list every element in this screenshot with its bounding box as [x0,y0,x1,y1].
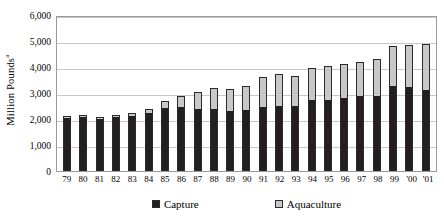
x-axis-tick-label: 85 [161,174,169,188]
bar-segment-capture [275,106,283,171]
x-axis-tick-label: 81 [95,174,103,188]
x-axis-tick-label: 83 [128,174,136,188]
bar-group [112,115,120,171]
y-axis-title-footnote: a [3,55,10,58]
x-axis-tick-label: '01 [423,174,431,188]
plot-area [56,16,437,172]
bar-segment-capture [112,117,120,171]
bar-group [373,59,381,171]
bar-group [63,116,71,171]
x-axis-tick-label: 82 [111,174,119,188]
bar-segment-capture [194,109,202,171]
x-axis-tick-label: 95 [324,174,332,188]
y-axis-tick-label: 6,000 [30,11,51,21]
bar-segment-capture [242,110,250,171]
bar-group [177,96,185,171]
bar-group [389,46,397,171]
x-axis-tick-label: 80 [79,174,87,188]
bar-group [259,77,267,171]
bar-group [161,101,169,171]
bar-segment-capture [373,96,381,171]
bar-segment-capture [324,100,332,171]
bar-segment-capture [161,108,169,171]
x-axis-tick-label: 92 [275,174,283,188]
black-square-icon [152,200,160,208]
y-axis-tick-labels: 01,0002,0003,0004,0005,0006,000 [16,16,54,172]
bar-segment-capture [177,107,185,171]
bar-segment-capture [63,118,71,171]
x-axis-tick-label: 89 [226,174,234,188]
bar-segment-capture [128,116,136,171]
bar-group [79,115,87,171]
stacked-bar-chart: Million Poundsa 01,0002,0003,0004,0005,0… [0,0,444,221]
bar-segment-capture [145,113,153,172]
x-axis-tick-label: 88 [210,174,218,188]
bar-group [275,74,283,171]
bar-segment-aquaculture [324,66,332,100]
bar-group [308,68,316,171]
bar-segment-aquaculture [226,89,234,112]
y-axis-tick-label: 2,000 [30,115,51,125]
bar-segment-aquaculture [194,92,202,110]
bar-segment-aquaculture [356,62,364,96]
legend-item-capture: Capture [152,198,199,210]
y-axis-tick-label: 0 [46,167,51,177]
x-axis-tick-label: 91 [259,174,267,188]
x-axis-tick-label: 96 [341,174,349,188]
bar-segment-capture [405,87,413,171]
bar-group [210,88,218,171]
y-axis-tick-label: 3,000 [30,89,51,99]
bar-group [96,117,104,171]
bar-segment-capture [226,111,234,171]
y-axis-tick-label: 4,000 [30,63,51,73]
bar-segment-capture [356,96,364,171]
bar-segment-capture [340,98,348,171]
bar-segment-capture [210,109,218,171]
legend-label-aquaculture: Aquaculture [287,198,341,210]
chart-legend: Capture Aquaculture [56,196,437,212]
bar-group [128,113,136,171]
x-axis-tick-labels: 7980818283848586878889909192939495969798… [56,174,437,188]
bar-segment-capture [79,117,87,171]
x-axis-tick-label: 86 [177,174,185,188]
bar-group [422,44,430,171]
y-axis-title-text: Million Poundsa [3,55,16,126]
bar-segment-capture [308,100,316,171]
bar-segment-aquaculture [340,64,348,97]
x-axis-tick-label: 87 [193,174,201,188]
bar-segment-capture [422,90,430,171]
bar-group [226,89,234,171]
x-axis-tick-label: 84 [144,174,152,188]
gray-square-icon [275,200,283,208]
x-axis-tick-label: 90 [242,174,250,188]
x-axis-tick-label: 79 [62,174,70,188]
bar-segment-capture [96,119,104,171]
x-axis-tick-label: 99 [390,174,398,188]
y-axis-tick-label: 1,000 [30,141,51,151]
x-axis-tick-label: 97 [357,174,365,188]
x-axis-tick-label: '00 [406,174,414,188]
bar-segment-aquaculture [405,45,413,87]
bar-segment-aquaculture [275,74,283,106]
bar-group [340,64,348,171]
bars-layer [57,17,436,171]
bar-segment-aquaculture [291,76,299,107]
bar-segment-aquaculture [308,68,316,100]
bar-group [242,86,250,171]
bar-segment-aquaculture [373,59,381,96]
bar-segment-capture [259,107,267,171]
bar-group [356,62,364,171]
bar-segment-aquaculture [210,88,218,109]
bar-segment-capture [389,86,397,171]
y-axis-tick-label: 5,000 [30,37,51,47]
bar-segment-aquaculture [242,86,250,111]
legend-label-capture: Capture [164,198,199,210]
bar-group [405,45,413,171]
bar-segment-aquaculture [422,44,430,90]
x-axis-tick-label: 93 [292,174,300,188]
bar-segment-aquaculture [259,77,267,107]
legend-item-aquaculture: Aquaculture [275,198,341,210]
bar-segment-aquaculture [389,46,397,86]
bar-group [194,92,202,171]
x-axis-tick-label: 98 [374,174,382,188]
